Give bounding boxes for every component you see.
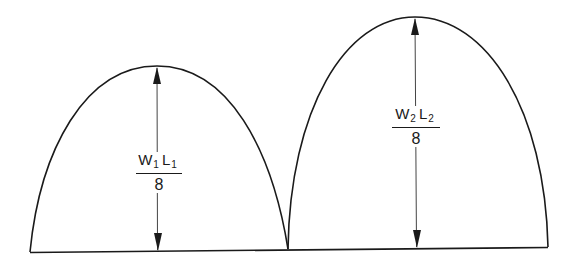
load-subscript: 2 <box>410 113 416 124</box>
length-subscript: 1 <box>171 159 177 170</box>
baseline <box>30 248 548 253</box>
load-symbol: W <box>138 151 152 168</box>
peak-moment-label-span-2: W2L2 8 <box>392 106 440 147</box>
numerator: W2L2 <box>392 106 440 127</box>
moment-diagram-canvas <box>0 0 568 262</box>
length-symbol: L <box>419 105 427 122</box>
load-symbol: W <box>395 105 409 122</box>
numerator: W1L1 <box>136 152 182 173</box>
arrowhead-down-icon <box>413 230 421 248</box>
denominator: 8 <box>136 174 182 193</box>
length-symbol: L <box>162 151 170 168</box>
arrowhead-up-icon <box>411 18 419 35</box>
denominator: 8 <box>392 128 440 147</box>
arrowhead-up-icon <box>153 67 161 84</box>
length-subscript: 2 <box>428 113 434 124</box>
arrowhead-down-icon <box>154 233 162 251</box>
load-subscript: 1 <box>153 159 159 170</box>
peak-moment-label-span-1: W1L1 8 <box>136 152 182 193</box>
